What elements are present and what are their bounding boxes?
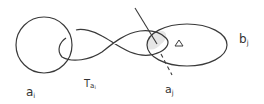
triangle-icon (175, 40, 183, 46)
label-a-i: ai (26, 85, 35, 100)
label-T-a-i: Tai (83, 78, 96, 90)
curve-a-j-solid (135, 8, 157, 44)
diagram-canvas: ai Tai aj bj (0, 0, 264, 104)
label-b-j: bj (239, 32, 249, 47)
shaded-overlap-region (147, 31, 166, 50)
label-a-j: aj (165, 83, 174, 97)
curve-a-i-circle (16, 17, 72, 73)
